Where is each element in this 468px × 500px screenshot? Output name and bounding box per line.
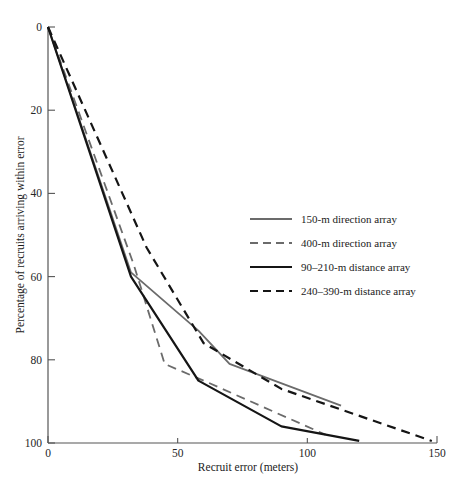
- x-tick-label: 150: [428, 447, 446, 459]
- series-line-0: [48, 27, 341, 406]
- y-tick-label: 100: [25, 437, 43, 449]
- y-tick-label: 20: [31, 104, 43, 116]
- x-axis-ticks: 050100150: [45, 436, 446, 459]
- axis-lines: [48, 27, 437, 443]
- series-line-3: [48, 27, 432, 441]
- series-line-2: [48, 27, 359, 441]
- y-tick-label: 60: [31, 271, 43, 283]
- recruit-error-line-chart: 050100150 020406080100 150-m direction a…: [0, 0, 468, 500]
- x-axis-title: Recruit error (meters): [198, 461, 298, 474]
- legend-label-3: 240–390-m distance array: [301, 285, 416, 297]
- legend: 150-m direction array400-m direction arr…: [250, 213, 416, 297]
- legend-label-1: 400-m direction array: [301, 237, 397, 249]
- x-tick-label: 50: [172, 447, 184, 459]
- x-tick-label: 100: [299, 447, 317, 459]
- legend-label-0: 150-m direction array: [301, 213, 397, 225]
- y-axis-title: Percentage of recruits arriving within e…: [14, 136, 27, 333]
- x-tick-label: 0: [45, 447, 51, 459]
- chart-figure: 050100150 020406080100 150-m direction a…: [0, 0, 468, 500]
- y-tick-label: 40: [31, 187, 43, 199]
- data-series-group: [48, 27, 432, 441]
- series-line-1: [48, 27, 325, 435]
- y-tick-label: 80: [31, 354, 43, 366]
- legend-label-2: 90–210-m distance array: [301, 261, 411, 273]
- y-axis-ticks: 020406080100: [25, 21, 55, 449]
- y-tick-label: 0: [36, 21, 42, 33]
